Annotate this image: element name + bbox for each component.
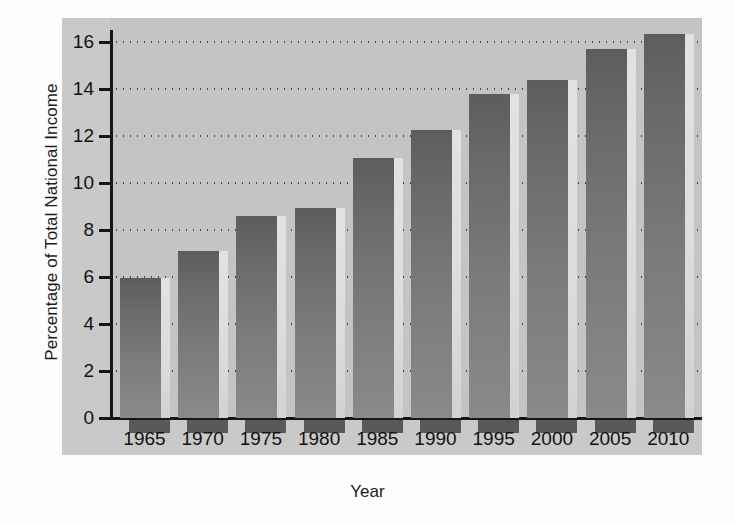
y-axis-title: Percentage of Total National Income: [42, 22, 62, 422]
y-tick-mark-4: [99, 323, 113, 326]
bar-1990: [411, 130, 452, 418]
x-tick-label-2010: 2010: [633, 428, 703, 450]
y-tick-mark-12: [99, 135, 113, 138]
x-axis-title: Year: [0, 482, 735, 502]
bar-1965: [120, 278, 161, 418]
bar-2010: [644, 34, 685, 418]
y-tick-mark-16: [99, 41, 113, 44]
y-tick-mark-2: [99, 370, 113, 373]
bar-1975: [236, 216, 277, 418]
y-tick-mark-8: [99, 229, 113, 232]
bar-1995: [469, 94, 510, 418]
bar-1985: [353, 158, 394, 418]
y-tick-mark-0: [99, 417, 113, 420]
bar-2000: [527, 80, 568, 418]
y-tick-mark-6: [99, 276, 113, 279]
y-tick-mark-14: [99, 88, 113, 91]
bar-1970: [178, 251, 219, 418]
bar-chart-figure: 0246810121416 19651970197519801985199019…: [0, 0, 735, 523]
gridline-16: [113, 41, 702, 43]
bar-1980: [295, 208, 336, 418]
y-tick-mark-10: [99, 182, 113, 185]
bar-2005: [586, 49, 627, 418]
